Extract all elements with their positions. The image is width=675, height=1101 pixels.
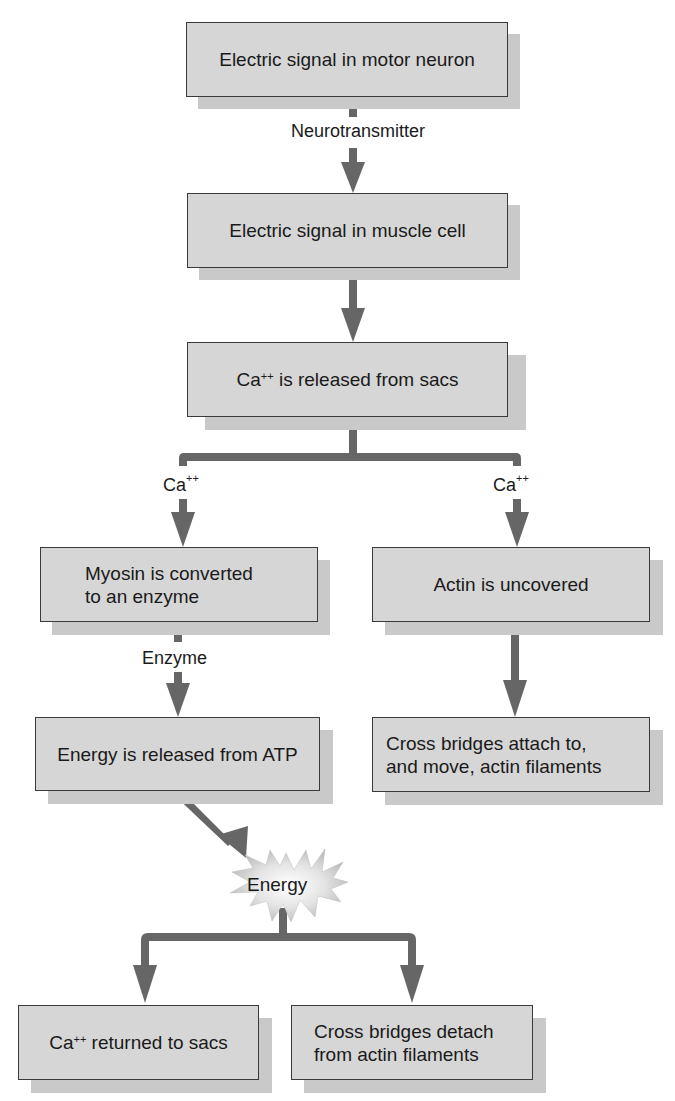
box-cross-bridges-detach: Cross bridges detach from actin filament… [291,1005,533,1080]
box-ca-released: Ca++ is released from sacs [187,342,508,417]
label-enzyme: Enzyme [142,648,207,669]
box-text: Ca++ is released from sacs [237,368,459,391]
box-ca-returned: Ca++ returned to sacs [18,1005,259,1080]
box-electric-signal-motor-neuron: Electric signal in motor neuron [186,22,508,97]
box-text: Electric signal in muscle cell [229,219,466,242]
label-neurotransmitter: Neurotransmitter [291,121,425,142]
box-text: Actin is uncovered [433,573,588,596]
box-text: Energy is released from ATP [57,743,297,766]
box-text: Cross bridges detach from actin filament… [314,1020,494,1066]
box-text: Ca++ returned to sacs [49,1031,228,1054]
label-ca-left: Ca++ [163,475,199,496]
box-actin-uncovered: Actin is uncovered [372,547,650,622]
box-electric-signal-muscle-cell: Electric signal in muscle cell [187,193,508,268]
label-energy-burst: Energy [247,874,307,896]
box-text: Cross bridges attach to, and move, actin… [386,732,601,778]
box-text: Electric signal in motor neuron [219,48,475,71]
box-text: Myosin is converted to an enzyme [85,562,253,608]
box-myosin-converted: Myosin is converted to an enzyme [40,547,318,622]
box-cross-bridges-attach: Cross bridges attach to, and move, actin… [372,717,650,792]
box-energy-released-atp: Energy is released from ATP [35,717,320,791]
label-ca-right: Ca++ [493,475,529,496]
